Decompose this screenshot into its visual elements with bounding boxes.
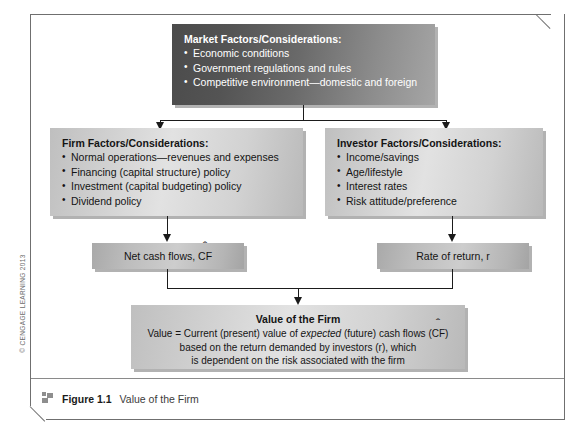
arrowhead-to-value-box xyxy=(294,297,302,305)
value-of-firm-box: Value of the Firm Value = Current (prese… xyxy=(131,305,465,369)
frame-top-border xyxy=(30,14,551,15)
value-of-firm-heading: Value of the Firm xyxy=(143,312,453,326)
value-line1-part-b: (future) cash flows ( xyxy=(341,328,432,339)
caption-divider xyxy=(31,378,564,379)
caption-marker-icon xyxy=(42,392,54,405)
list-item: Government regulations and rules xyxy=(184,61,435,76)
rate-of-return-label: Rate of return, r xyxy=(416,250,490,262)
cf-hat-symbol: CF xyxy=(198,250,212,262)
market-factors-box: Market Factors/Considerations: Economic … xyxy=(172,24,435,105)
frame-bottom-border xyxy=(46,419,565,420)
copyright-notice: © CENGAGE LEARNING 2013 xyxy=(19,244,26,364)
net-cash-flows-box: Net cash flows, CF xyxy=(92,243,244,269)
frame-right-border xyxy=(564,14,565,420)
value-of-firm-line-2: based on the return demanded by investor… xyxy=(143,341,453,355)
list-item: Age/lifestyle xyxy=(337,165,543,180)
list-item: Competitive environment—domestic and for… xyxy=(184,75,435,90)
value-of-firm-line-3: is dependent on the risk associated with… xyxy=(143,354,453,368)
list-item: Economic conditions xyxy=(184,46,435,61)
connector-netcash-down xyxy=(167,269,168,289)
list-item: Income/savings xyxy=(337,150,543,165)
connector-firm-to-netcash xyxy=(167,216,168,236)
connector-market-bus xyxy=(160,120,447,121)
firm-factors-title: Firm Factors/Considerations: xyxy=(62,136,303,150)
figure-caption-text: Value of the Firm xyxy=(120,393,199,405)
net-cash-flows-prefix: Net cash flows, xyxy=(124,250,198,262)
value-of-firm-line-1: Value = Current (present) value of expec… xyxy=(143,327,453,341)
connector-rate-down xyxy=(452,269,453,289)
investor-factors-title: Investor Factors/Considerations: xyxy=(337,136,543,150)
value-line1-part-c: ) xyxy=(445,328,448,339)
cf-hat-symbol: CF xyxy=(432,327,445,341)
net-cash-flows-label: Net cash flows, CF xyxy=(124,250,212,262)
frame-left-border xyxy=(30,14,31,406)
arrowhead-to-rate xyxy=(448,234,456,242)
figure-number-label: Figure 1.1 xyxy=(62,393,112,405)
investor-factors-box: Investor Factors/Considerations: Income/… xyxy=(325,128,543,216)
value-line1-part-a: Value = Current (present) value of xyxy=(148,328,301,339)
investor-factors-list: Income/savings Age/lifestyle Interest ra… xyxy=(337,150,543,208)
list-item: Dividend policy xyxy=(62,194,303,209)
list-item: Interest rates xyxy=(337,179,543,194)
frame-corner-notch-bottom-left xyxy=(30,406,46,422)
connector-merge-bus xyxy=(167,288,453,289)
figure-caption: Figure 1.1 Value of the Firm xyxy=(42,392,199,405)
frame-corner-notch-top-right xyxy=(536,14,551,29)
connector-market-stem xyxy=(303,105,304,121)
list-item: Risk attitude/preference xyxy=(337,194,543,209)
list-item: Normal operations—revenues and expenses xyxy=(62,150,303,165)
list-item: Investment (capital budgeting) policy xyxy=(62,179,303,194)
arrowhead-to-netcash xyxy=(163,234,171,242)
list-item: Financing (capital structure) policy xyxy=(62,165,303,180)
rate-of-return-box: Rate of return, r xyxy=(377,243,529,269)
market-factors-list: Economic conditions Government regulatio… xyxy=(184,46,435,90)
connector-investor-to-rate xyxy=(452,216,453,236)
value-line1-italic-expected: expected xyxy=(301,328,342,339)
firm-factors-box: Firm Factors/Considerations: Normal oper… xyxy=(50,128,303,216)
market-factors-title: Market Factors/Considerations: xyxy=(184,32,435,46)
firm-factors-list: Normal operations—revenues and expenses … xyxy=(62,150,303,208)
